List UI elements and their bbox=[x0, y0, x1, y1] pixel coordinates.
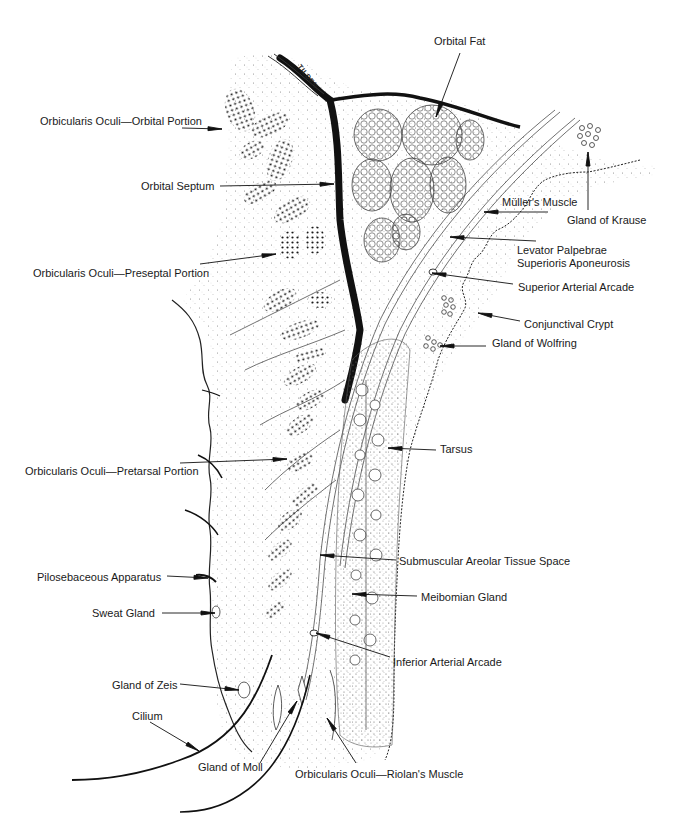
label-superior-arterial-arcade: Superior Arterial Arcade bbox=[518, 281, 634, 294]
label-levator-aponeurosis: Levator Palpebrae Superioris Aponeurosis bbox=[517, 244, 630, 270]
label-mullers-muscle: Müller's Muscle bbox=[502, 196, 577, 209]
arrowhead-icon bbox=[586, 152, 590, 166]
label-orbicularis-orbital: Orbicularis Oculi—Orbital Portion bbox=[40, 115, 202, 128]
label-orbital-fat: Orbital Fat bbox=[434, 35, 485, 48]
label-inferior-arterial-arcade: Inferior Arterial Arcade bbox=[393, 656, 502, 669]
label-gland-of-moll: Gland of Moll bbox=[198, 761, 263, 774]
gland-of-krause-cluster bbox=[578, 124, 601, 148]
label-pilosebaceous-apparatus: Pilosebaceous Apparatus bbox=[37, 571, 161, 584]
eyelid-cross-section-figure: TILDEN Orbicularis Oculi—Orbital Portion… bbox=[0, 0, 677, 833]
label-conjunctival-crypt: Conjunctival Crypt bbox=[524, 318, 613, 331]
label-sweat-gland: Sweat Gland bbox=[92, 607, 155, 620]
label-meibomian-gland: Meibomian Gland bbox=[421, 591, 507, 604]
label-orbicularis-pretarsal: Orbicularis Oculi—Pretarsal Portion bbox=[25, 465, 199, 478]
label-tarsus: Tarsus bbox=[440, 443, 472, 456]
label-gland-of-krause: Gland of Krause bbox=[567, 214, 647, 227]
label-orbital-septum: Orbital Septum bbox=[141, 180, 214, 193]
label-orbicularis-riolan: Orbicularis Oculi—Riolan's Muscle bbox=[295, 768, 463, 781]
label-gland-of-wolfring: Gland of Wolfring bbox=[492, 337, 577, 350]
label-cilium: Cilium bbox=[132, 710, 163, 723]
label-submuscular-areolar: Submuscular Areolar Tissue Space bbox=[399, 555, 570, 568]
label-gland-of-zeis: Gland of Zeis bbox=[112, 679, 177, 692]
arrowhead-icon bbox=[186, 742, 199, 751]
label-orbicularis-preseptal: Orbicularis Oculi—Preseptal Portion bbox=[33, 267, 209, 280]
arrowhead-icon bbox=[208, 127, 222, 131]
